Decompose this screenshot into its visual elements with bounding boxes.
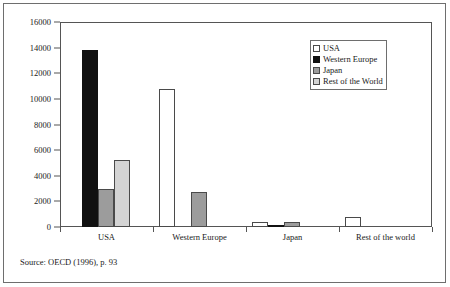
y-axis-tick-label: 6000 (34, 146, 51, 155)
bar (268, 225, 284, 227)
bar (284, 222, 300, 227)
x-axis-category-label: Japan (283, 233, 302, 242)
bar (345, 217, 361, 227)
x-axis-tick (60, 227, 61, 232)
light-gray-square-icon (313, 78, 320, 85)
white-square-icon (313, 45, 320, 52)
x-axis-tick (246, 227, 247, 232)
bar-group (60, 22, 153, 227)
x-axis-category-label: USA (98, 233, 115, 242)
legend-item-label: USA (323, 44, 340, 53)
legend-item: Western Europe (313, 54, 383, 65)
bar (114, 160, 130, 227)
legend-item-label: Rest of the World (323, 77, 383, 86)
x-axis-tick (153, 227, 154, 232)
x-axis-tick (432, 227, 433, 232)
legend-item: Japan (313, 65, 383, 76)
black-square-icon (313, 56, 320, 63)
legend-item: USA (313, 43, 383, 54)
x-axis-category-label: Western Europe (172, 233, 226, 242)
y-axis-tick-label: 2000 (34, 197, 51, 206)
bar (252, 222, 268, 227)
chart-legend: USAWestern EuropeJapanRest of the World (310, 40, 387, 90)
source-note: Source: OECD (1996), p. 93 (20, 258, 117, 267)
gray-square-icon (313, 67, 320, 74)
y-axis-tick-label: 14000 (30, 43, 51, 52)
bar-group (153, 22, 246, 227)
bar (191, 192, 207, 227)
chart-page: 0200040006000800010000120001400016000 US… (0, 0, 450, 287)
bar (98, 189, 114, 227)
bar (159, 89, 175, 227)
y-axis-tick-label: 4000 (34, 172, 51, 181)
y-axis-tick-label: 10000 (30, 95, 51, 104)
legend-item: Rest of the World (313, 76, 383, 87)
legend-item-label: Japan (323, 66, 342, 75)
x-axis-category-label: Rest of the world (356, 233, 415, 242)
bar (82, 50, 98, 227)
y-axis-tick-label: 16000 (30, 18, 51, 27)
y-axis-tick-label: 8000 (34, 120, 51, 129)
y-axis-tick-label: 0 (47, 223, 51, 232)
legend-item-label: Western Europe (323, 55, 377, 64)
y-axis-tick-label: 12000 (30, 69, 51, 78)
x-axis-tick (339, 227, 340, 232)
